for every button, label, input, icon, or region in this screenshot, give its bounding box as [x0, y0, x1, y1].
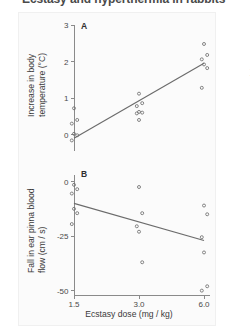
data-point [70, 122, 73, 125]
data-point [203, 204, 206, 207]
data-point [141, 111, 144, 114]
panel-b-ylabel-line1: Fall in ear pinna blood [26, 188, 36, 273]
data-point [206, 67, 209, 70]
data-point [203, 251, 206, 254]
panel-b-ylabel-line2: flow (cm / s) [37, 227, 47, 273]
data-point [70, 139, 73, 142]
data-point [70, 223, 73, 226]
data-point [135, 105, 138, 108]
panel-b-ytick-label: 0 [64, 178, 69, 187]
panel-a-ytick-label: 0 [64, 131, 69, 140]
figure-card: 3210 A Increase in body temperature (°C)… [18, 12, 216, 326]
panel-b: 0-25-50 1.53.06.0 B Fall in ear pinna bl… [19, 165, 215, 323]
title-strip: Ecstasy and hyperthermia in rabbits [0, 0, 250, 11]
x-axis-ticks: 1.53.06.0 [68, 295, 210, 309]
data-point [70, 192, 73, 195]
panel-a: 3210 A Increase in body temperature (°C) [19, 17, 215, 167]
data-point [135, 225, 138, 228]
data-point [200, 86, 203, 89]
x-tick-label: 1.5 [68, 300, 80, 309]
panel-b-data-points [70, 183, 208, 292]
panel-a-ytick-label: 3 [64, 21, 69, 30]
page-title: Ecstasy and hyperthermia in rabbits [22, 0, 225, 6]
panel-b-plot: 0-25-50 1.53.06.0 B Fall in ear pinna bl… [19, 165, 215, 323]
data-point [141, 261, 144, 264]
data-point [203, 42, 206, 45]
data-point [200, 58, 203, 61]
panel-b-ytick-label: -50 [57, 287, 69, 296]
panel-a-data-points [70, 42, 208, 141]
panel-b-letter: B [81, 169, 87, 179]
source-credit-line2: The Journal of Neuroscience, 1 November … [249, 0, 250, 118]
panel-a-ticks: 3210 [64, 21, 74, 140]
data-point [141, 212, 144, 215]
panel-a-plot: 3210 A Increase in body temperature (°C) [19, 17, 215, 167]
x-tick-label: 3.0 [133, 300, 145, 309]
data-point [138, 118, 141, 121]
data-point [200, 289, 203, 292]
panel-b-axes [74, 175, 210, 295]
data-point [206, 213, 209, 216]
data-point [76, 212, 79, 215]
data-point [200, 236, 203, 239]
data-point [138, 230, 141, 233]
panel-b-ytick-label: -25 [57, 232, 69, 241]
data-point [138, 92, 141, 95]
panel-a-ytick-label: 2 [64, 58, 69, 67]
data-point [206, 53, 209, 56]
data-point [141, 102, 144, 105]
data-point [206, 285, 209, 288]
panel-a-ylabel-line1: Increase in body [26, 53, 36, 117]
data-point [76, 188, 79, 191]
panel-a-letter: A [81, 21, 87, 31]
x-tick-label: 6.0 [198, 300, 210, 309]
panel-a-fit-line [74, 63, 204, 138]
data-point [76, 118, 79, 121]
panel-a-ytick-label: 1 [64, 94, 69, 103]
panel-b-fit-line [74, 203, 204, 240]
x-axis-label: Ecstasy dose (mg / kg) [85, 309, 173, 319]
panel-a-ylabel-line2: temperature (°C) [37, 53, 47, 117]
source-credit: Data source: N. P. Pedersen and W. W. Bl… [249, 0, 250, 118]
data-point [138, 186, 141, 189]
